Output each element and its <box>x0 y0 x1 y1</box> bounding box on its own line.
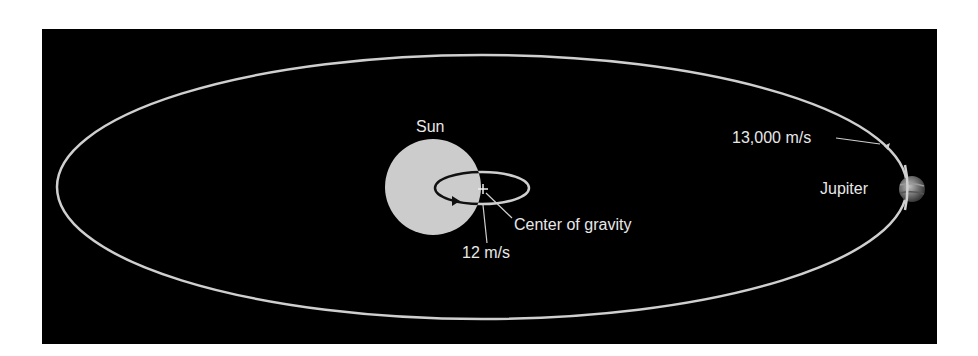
sun-label: Sun <box>416 118 444 136</box>
sun-disc <box>385 139 481 235</box>
jupiter-planet <box>899 176 925 202</box>
center-of-gravity-label: Center of gravity <box>514 216 631 234</box>
jupiter-label: Jupiter <box>820 180 868 198</box>
jupiter-speed-leader <box>836 138 880 144</box>
sun-speed-leader <box>483 205 487 243</box>
orbit-diagram <box>0 0 978 356</box>
jupiter-orbit <box>57 55 907 319</box>
center-of-gravity-leader <box>486 193 512 218</box>
jupiter-speed-label: 13,000 m/s <box>732 129 811 147</box>
sun-speed-label: 12 m/s <box>462 244 510 262</box>
